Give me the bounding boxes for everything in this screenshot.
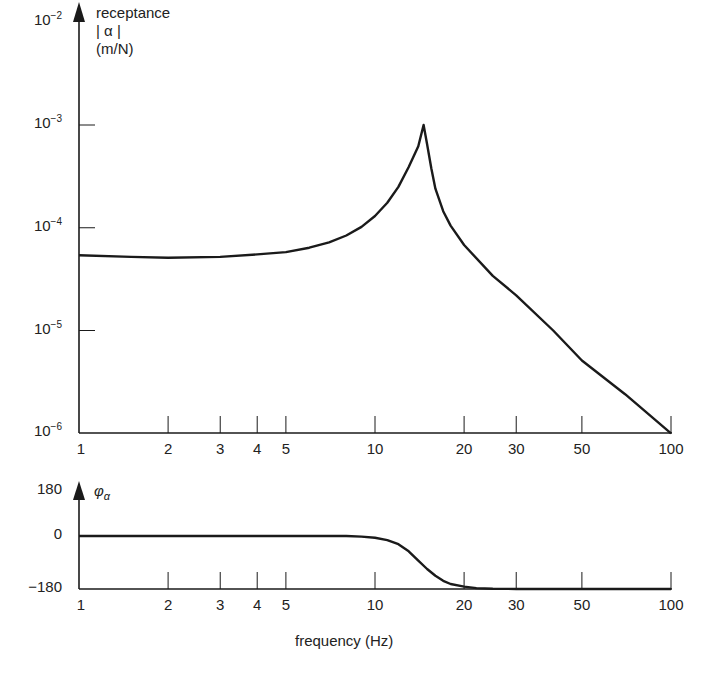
- y-tick-label: 10−2: [2, 10, 62, 28]
- magnitude-axis-unit: (m/N): [96, 40, 134, 57]
- phase-x-tick-label: 3: [216, 596, 224, 613]
- x-tick-label: 100: [658, 440, 683, 457]
- phase-x-tick-label: 100: [658, 596, 683, 613]
- x-tick-label: 1: [77, 440, 85, 457]
- x-tick-label: 4: [253, 440, 261, 457]
- phase-axis-title: φα: [94, 482, 110, 502]
- phase-y-tick-label: −180: [2, 578, 62, 595]
- y-tick-label: 10−5: [2, 319, 62, 337]
- magnitude-axis-symbol: | α |: [96, 22, 121, 39]
- phase-x-tick-label: 2: [164, 596, 172, 613]
- x-tick-label: 2: [164, 440, 172, 457]
- phase-x-tick-label: 10: [367, 596, 384, 613]
- x-tick-label: 20: [456, 440, 473, 457]
- bode-plot: [0, 0, 705, 681]
- phase-y-axis-arrow-icon: [73, 481, 85, 500]
- magnitude-axis-title: receptance: [96, 4, 170, 21]
- y-tick-label: 10−6: [2, 421, 62, 439]
- phase-x-tick-label: 30: [508, 596, 525, 613]
- phase-y-tick-label: 180: [2, 480, 62, 497]
- phase-x-tick-label: 4: [253, 596, 261, 613]
- y-tick-label: 10−3: [2, 113, 62, 131]
- x-tick-label: 3: [216, 440, 224, 457]
- x-tick-label: 10: [367, 440, 384, 457]
- receptance-magnitude-curve: [79, 125, 671, 433]
- phase-x-tick-label: 1: [77, 596, 85, 613]
- x-tick-label: 5: [282, 440, 290, 457]
- x-tick-label: 50: [574, 440, 591, 457]
- y-axis-arrow-icon: [73, 2, 85, 22]
- frequency-axis-title: frequency (Hz): [295, 632, 393, 649]
- phase-y-tick-label: 0: [2, 525, 62, 542]
- phase-x-tick-label: 20: [456, 596, 473, 613]
- x-tick-label: 30: [508, 440, 525, 457]
- y-tick-label: 10−4: [2, 216, 62, 234]
- phase-x-tick-label: 50: [574, 596, 591, 613]
- phase-x-tick-label: 5: [282, 596, 290, 613]
